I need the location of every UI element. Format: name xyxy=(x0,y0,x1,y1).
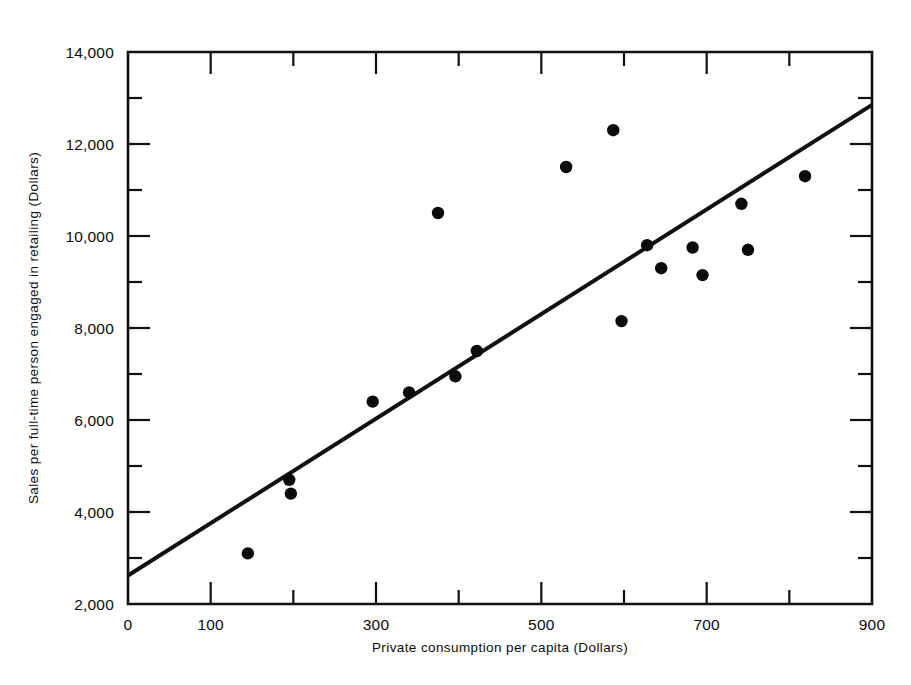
data-point xyxy=(615,315,627,327)
data-point xyxy=(686,241,698,253)
x-axis-title: Private consumption per capita (Dollars) xyxy=(372,640,628,655)
scatter-chart-figure: Sales per full-time person engaged in re… xyxy=(0,0,911,685)
regression-line xyxy=(128,105,872,576)
y-tick-label: 2,000 xyxy=(74,596,114,613)
data-point xyxy=(696,269,708,281)
trend-line-group xyxy=(128,105,872,576)
y-axis-title: Sales per full-time person engaged in re… xyxy=(26,152,41,504)
data-point xyxy=(607,124,619,136)
data-point xyxy=(432,207,444,219)
data-point xyxy=(641,239,653,251)
data-points-group xyxy=(242,124,812,560)
data-point xyxy=(742,244,754,256)
x-tick-label: 0 xyxy=(124,616,133,633)
data-point xyxy=(449,370,461,382)
data-point xyxy=(403,386,415,398)
plot-frame xyxy=(128,52,872,604)
chart-svg: Sales per full-time person engaged in re… xyxy=(0,0,911,685)
x-tick-label: 300 xyxy=(363,616,390,633)
data-point xyxy=(560,161,572,173)
y-tick-label: 12,000 xyxy=(65,136,114,153)
x-tick-label: 100 xyxy=(197,616,224,633)
x-tick-label: 700 xyxy=(693,616,720,633)
x-tick-label: 500 xyxy=(528,616,555,633)
y-tick-label: 10,000 xyxy=(65,228,114,245)
data-point xyxy=(242,547,254,559)
data-point xyxy=(366,395,378,407)
data-point xyxy=(799,170,811,182)
data-point xyxy=(283,474,295,486)
y-tick-label: 14,000 xyxy=(65,44,114,61)
frame-rect xyxy=(128,52,872,604)
x-tick-label: 900 xyxy=(859,616,886,633)
data-point xyxy=(471,345,483,357)
data-point xyxy=(285,487,297,499)
y-tick-label: 4,000 xyxy=(74,504,114,521)
y-tick-label: 6,000 xyxy=(74,412,114,429)
y-tick-label: 8,000 xyxy=(74,320,114,337)
data-point xyxy=(655,262,667,274)
data-point xyxy=(735,198,747,210)
axis-ticks: 2,0004,0006,0008,00010,00012,00014,00001… xyxy=(65,44,885,634)
